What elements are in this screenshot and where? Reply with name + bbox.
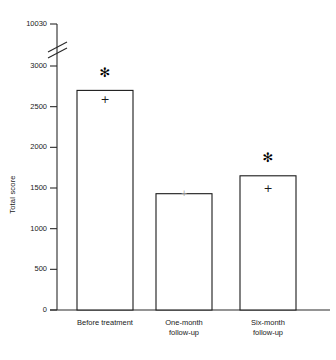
- y-tick-label: 10030: [26, 20, 47, 28]
- x-category-label: Six-month follow-up: [213, 318, 323, 337]
- plus-marker: +: [85, 94, 125, 105]
- y-tick-label: 0: [43, 306, 47, 314]
- significance-asterisk: ✻: [248, 151, 288, 164]
- y-axis-title: Total score: [8, 165, 17, 225]
- y-tick-label: 500: [34, 265, 47, 273]
- significance-asterisk: ✻: [85, 66, 125, 79]
- bar-series: [77, 90, 296, 310]
- bar-chart-figure: 05001000150020002500300010030 Total scor…: [0, 0, 336, 360]
- y-tick-marks: [50, 24, 57, 310]
- y-tick-label: 2000: [30, 143, 47, 151]
- plus-marker: +: [164, 188, 204, 199]
- y-tick-label: 1000: [30, 225, 47, 233]
- y-tick-label: 1500: [30, 184, 47, 192]
- bar: [240, 176, 296, 310]
- y-tick-label: 3000: [30, 62, 47, 70]
- bar: [156, 194, 212, 310]
- bar: [77, 90, 133, 310]
- chart-plot-area: [0, 0, 336, 360]
- y-tick-label: 2500: [30, 103, 47, 111]
- plus-marker: +: [248, 183, 288, 194]
